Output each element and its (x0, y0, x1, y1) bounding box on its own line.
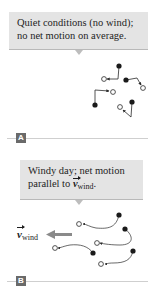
end-marker-icon (102, 77, 107, 82)
start-marker-icon (92, 102, 97, 107)
wind-arrow-icon (46, 230, 72, 239)
end-marker-icon (95, 241, 100, 246)
start-marker-icon (129, 99, 134, 104)
start-marker-icon (130, 248, 135, 253)
diagram-paths (0, 0, 155, 293)
panel-a-start-markers (92, 63, 134, 107)
panel-a-paths (95, 66, 141, 117)
panel-b-divider (7, 281, 148, 282)
panel-label-b: B (16, 276, 26, 286)
start-marker-icon (122, 226, 127, 231)
panel-b-paths (58, 215, 133, 264)
start-marker-icon (123, 77, 128, 82)
panel-label-a: A (16, 133, 26, 143)
end-marker-icon (77, 222, 82, 227)
end-marker-icon (111, 90, 116, 95)
start-marker-icon (116, 212, 121, 217)
panel-b-end-markers (53, 222, 104, 267)
end-marker-icon (118, 105, 123, 110)
end-marker-icon (141, 86, 146, 91)
panel-b-start-markers (90, 212, 135, 255)
end-marker-icon (99, 262, 104, 267)
start-marker-icon (90, 250, 95, 255)
panel-a-divider (7, 138, 148, 139)
end-marker-icon (53, 246, 58, 251)
start-marker-icon (116, 63, 121, 68)
